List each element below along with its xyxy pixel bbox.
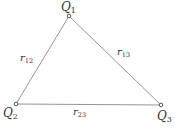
triangle-diagram: Q1 Q2 Q3 r12 r13 r23 — [0, 0, 175, 129]
node-q3-marker — [159, 103, 163, 107]
edge-r23 — [16, 104, 161, 105]
label-r13: r13 — [117, 46, 130, 59]
label-q2: Q2 — [3, 106, 18, 121]
node-q2-marker — [14, 102, 18, 106]
label-q3: Q3 — [157, 109, 172, 124]
label-r12: r12 — [20, 52, 33, 65]
label-r23: r23 — [73, 106, 86, 119]
label-q1: Q1 — [61, 0, 76, 15]
edge-r13 — [69, 16, 161, 105]
